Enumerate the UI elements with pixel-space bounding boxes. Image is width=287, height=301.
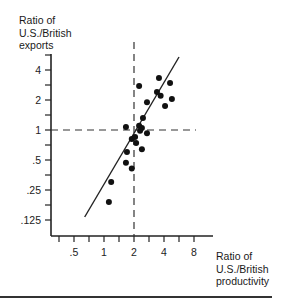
data-point bbox=[133, 140, 139, 146]
data-point bbox=[123, 124, 129, 130]
data-point bbox=[106, 199, 112, 205]
x-tick-label: 8 bbox=[191, 246, 197, 258]
data-point bbox=[140, 115, 146, 121]
data-point bbox=[162, 103, 168, 109]
y-tick-label: .25 bbox=[26, 184, 41, 196]
data-point bbox=[156, 75, 162, 81]
data-point bbox=[129, 166, 135, 172]
x-tick-label: 2 bbox=[131, 246, 137, 258]
x-tick-label: 1 bbox=[101, 246, 107, 258]
y-tick-label: 2 bbox=[35, 94, 41, 106]
data-point bbox=[167, 80, 173, 86]
y-tick-label: .125 bbox=[21, 214, 42, 226]
data-point bbox=[137, 128, 143, 134]
data-point bbox=[158, 93, 164, 99]
scatter-plot: 421.5.25.125.51248 bbox=[0, 0, 287, 301]
y-tick-label: 1 bbox=[35, 124, 41, 136]
y-tick-label: .5 bbox=[32, 154, 41, 166]
data-point bbox=[132, 134, 138, 140]
data-point bbox=[136, 83, 142, 89]
data-point bbox=[144, 99, 150, 105]
data-point bbox=[139, 146, 145, 152]
y-tick-label: 4 bbox=[35, 64, 41, 76]
data-point bbox=[144, 130, 150, 136]
data-point bbox=[108, 179, 114, 185]
data-point bbox=[123, 160, 129, 166]
data-point bbox=[169, 96, 175, 102]
data-point bbox=[124, 149, 130, 155]
x-tick-label: .5 bbox=[70, 246, 79, 258]
x-tick-label: 4 bbox=[161, 246, 167, 258]
bottom-rule bbox=[0, 296, 272, 298]
